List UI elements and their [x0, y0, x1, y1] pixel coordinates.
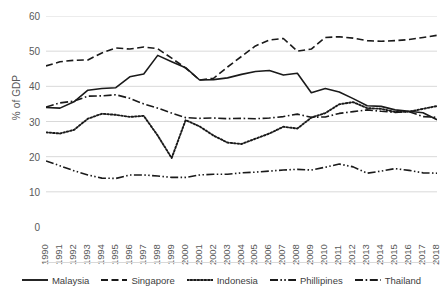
x-axis-tick-labels: 1990199119921993199419951996199719981999… [46, 229, 437, 265]
legend-swatch-dashed-icon [101, 275, 127, 285]
legend-label: Indonesia [217, 275, 258, 286]
legend-item-thailand[interactable]: Thailand [355, 275, 421, 286]
legend-item-malaysia[interactable]: Malaysia [22, 275, 90, 286]
line-chart: % of GDP 0102030405060 19901991199219931… [0, 0, 443, 295]
legend-label: Singapore [131, 275, 174, 286]
legend-label: Phillipines [300, 275, 343, 286]
legend-swatch-dash-dot-dot-icon [270, 275, 296, 285]
y-axis-tick-labels: 0102030405060 [0, 0, 46, 240]
legend-divider [46, 262, 437, 263]
y-tick-label: 60 [29, 11, 40, 22]
y-tick-label: 20 [29, 151, 40, 162]
y-tick-label: 50 [29, 46, 40, 57]
legend-label: Malaysia [52, 275, 90, 286]
legend-item-phillipines[interactable]: Phillipines [270, 275, 343, 286]
plot-svg [46, 16, 437, 227]
legend-item-indonesia[interactable]: Indonesia [187, 275, 258, 286]
series-line-singapore [46, 35, 437, 80]
legend-swatch-solid-icon [22, 275, 48, 285]
series-line-indonesia [46, 102, 437, 158]
legend-swatch-dotted-icon [187, 275, 213, 285]
legend-item-singapore[interactable]: Singapore [101, 275, 174, 286]
plot-area [46, 16, 437, 227]
series-line-phillipines [46, 161, 437, 179]
y-tick-label: 40 [29, 81, 40, 92]
y-tick-label: 0 [34, 222, 40, 233]
y-tick-label: 10 [29, 186, 40, 197]
chart-legend: MalaysiaSingaporeIndonesiaPhillipinesTha… [0, 270, 443, 290]
legend-swatch-dash-dot-icon [355, 275, 381, 285]
legend-label: Thailand [385, 275, 421, 286]
y-tick-label: 30 [29, 116, 40, 127]
series-line-malaysia [46, 55, 437, 119]
